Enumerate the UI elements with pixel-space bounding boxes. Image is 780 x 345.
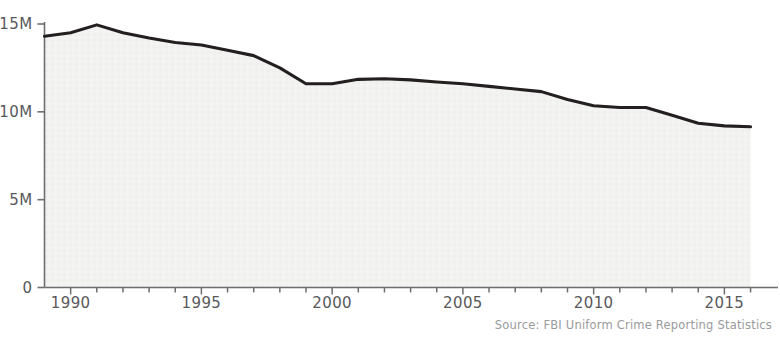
x-axis-tick-label: 1995 bbox=[182, 294, 222, 312]
x-axis-tick-label: 2005 bbox=[443, 294, 483, 312]
x-axis-tick-label: 2000 bbox=[312, 294, 352, 312]
y-axis-tick-label: 10M bbox=[0, 103, 33, 121]
crime-statistics-area-chart: 05M10M15M 199019952000200520102015 Sourc… bbox=[0, 0, 780, 345]
y-axis-tick-marks bbox=[38, 24, 45, 288]
x-axis-tick-label: 1990 bbox=[51, 294, 91, 312]
chart-plot-area bbox=[0, 0, 780, 345]
area-fill bbox=[45, 25, 751, 288]
x-axis-tick-label: 2015 bbox=[705, 294, 745, 312]
y-axis-tick-label: 5M bbox=[9, 191, 32, 209]
x-axis-tick-label: 2010 bbox=[574, 294, 614, 312]
y-axis-tick-label: 15M bbox=[0, 15, 33, 33]
x-axis-tick-marks bbox=[71, 288, 751, 295]
y-axis-tick-label: 0 bbox=[23, 279, 33, 297]
area-fill-group bbox=[45, 25, 751, 288]
source-note: Source: FBI Uniform Crime Reporting Stat… bbox=[495, 318, 772, 332]
